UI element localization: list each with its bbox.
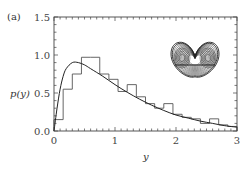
y-tick-label: 1.5 [34, 12, 50, 23]
attractor-inset-icon [171, 42, 219, 77]
x-axis-label: y [142, 151, 149, 162]
x-tick-label: 0 [51, 135, 57, 146]
x-tick-labels: 0123 [51, 135, 240, 146]
panel-label: (a) [7, 11, 21, 22]
x-tick-label: 3 [234, 135, 240, 146]
y-axis-label: p(y) [10, 88, 30, 99]
y-tick-labels: 0.00.51.01.5 [34, 12, 50, 137]
y-tick-label: 0.0 [34, 126, 50, 137]
y-tick-label: 1.0 [34, 50, 50, 61]
x-tick-label: 1 [112, 135, 118, 146]
histogram-steps [54, 57, 237, 131]
x-tick-label: 2 [173, 135, 179, 146]
chart: (a) 0.00.51.01.5 0123 p(y) y [0, 0, 250, 169]
y-tick-label: 0.5 [34, 88, 50, 99]
